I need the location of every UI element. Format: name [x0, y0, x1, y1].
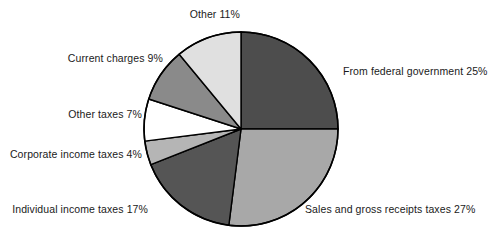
pie-chart-figure: From federal government 25% Sales and gr… — [0, 0, 495, 239]
slice-label-current-charges: Current charges 9% — [68, 52, 163, 64]
slice-label-other-taxes: Other taxes 7% — [68, 108, 142, 120]
slice-label-sales-and-gross-receipts-taxes: Sales and gross receipts taxes 27% — [305, 203, 475, 215]
slice-label-corporate-income-taxes: Corporate income taxes 4% — [10, 148, 142, 160]
pie-slices-group — [144, 32, 338, 226]
slice-label-individual-income-taxes: Individual income taxes 17% — [12, 203, 148, 215]
slice-label-other: Other 11% — [190, 8, 240, 20]
pie-slice-from-federal-government — [241, 32, 338, 129]
slice-label-from-federal-government: From federal government 25% — [343, 65, 488, 77]
